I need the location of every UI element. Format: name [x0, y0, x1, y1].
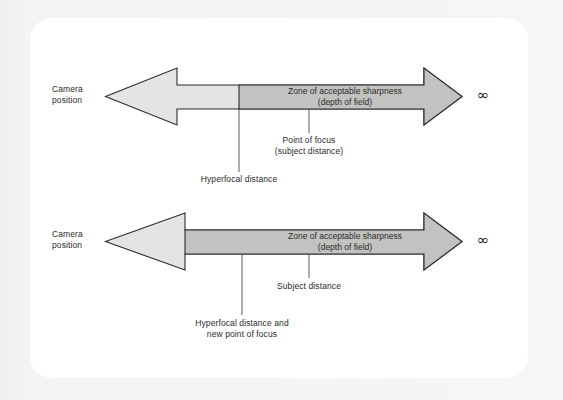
bottom-hyperfocal-line1: Hyperfocal distance and: [195, 318, 289, 328]
bottom-zone-label: Zone of acceptable sharpness(depth of fi…: [288, 231, 402, 253]
bottom-subject-distance-line1: Subject distance: [277, 281, 341, 291]
bottom-camera-position-label: Cameraposition: [52, 229, 83, 251]
bottom-subject-distance-label: Subject distance: [277, 281, 341, 292]
bottom-zone-label-line2: (depth of field): [318, 242, 372, 252]
bottom-infinity-symbol: ∞: [477, 233, 490, 248]
bottom-hyperfocal-new-focus-label: Hyperfocal distance andnew point of focu…: [195, 318, 289, 340]
bottom-zone-label-line1: Zone of acceptable sharpness: [288, 231, 402, 241]
bottom-camera-label-line2: position: [52, 240, 82, 250]
bottom-hyperfocal-line2: new point of focus: [207, 329, 277, 339]
bottom-diagram: [0, 0, 563, 400]
bottom-camera-label-line1: Camera: [52, 229, 83, 239]
page-background: Cameraposition Zone of acceptable sharpn…: [0, 0, 563, 400]
